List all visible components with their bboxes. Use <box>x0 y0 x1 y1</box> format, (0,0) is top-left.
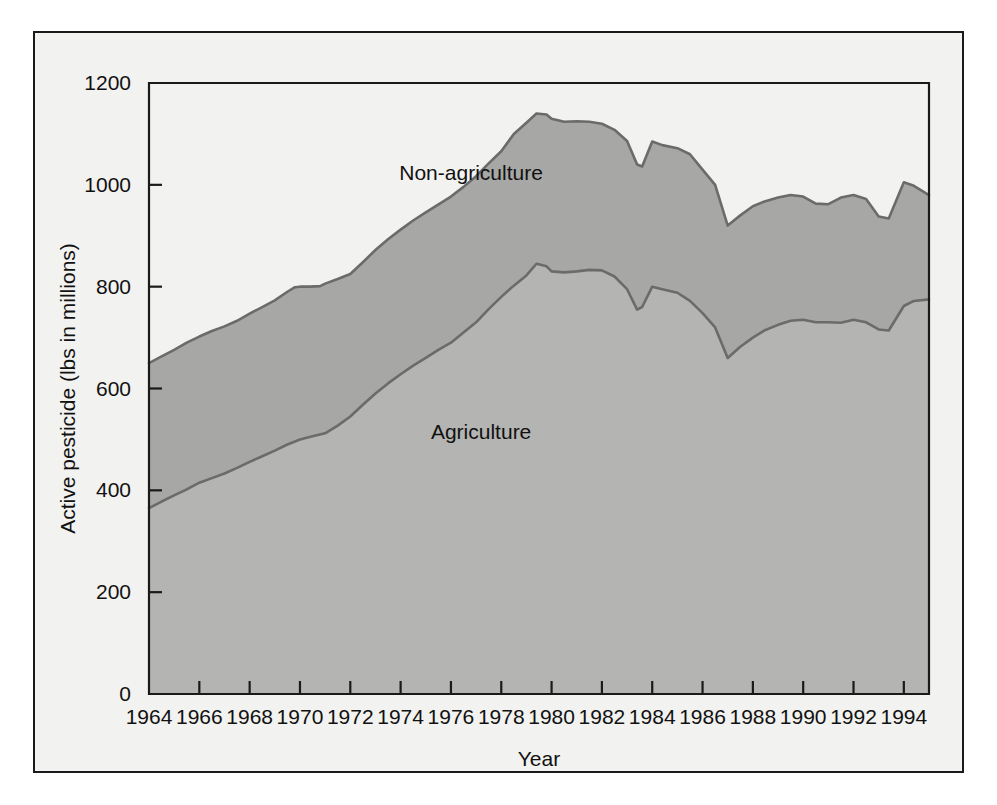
x-tick-label: 1980 <box>528 705 575 728</box>
y-tick-label: 1200 <box>84 71 131 94</box>
x-tick-label: 1990 <box>780 705 827 728</box>
x-tick-label: 1986 <box>679 705 726 728</box>
x-tick-label: 1974 <box>377 705 424 728</box>
x-tick-label: 1992 <box>830 705 877 728</box>
series-label-agriculture: Agriculture <box>431 420 531 443</box>
x-tick-label: 1976 <box>428 705 475 728</box>
area-chart: 020040060080010001200 196419661968197019… <box>35 33 966 775</box>
x-tick-label: 1964 <box>126 705 173 728</box>
x-tick-label: 1982 <box>579 705 626 728</box>
y-tick-label: 600 <box>96 377 131 400</box>
chart-svg: 020040060080010001200 196419661968197019… <box>35 33 966 775</box>
figure-panel: 020040060080010001200 196419661968197019… <box>33 31 964 773</box>
series-label-non-agriculture: Non-agriculture <box>399 161 543 184</box>
x-tick-label: 1978 <box>478 705 525 728</box>
x-tick-label: 1972 <box>327 705 374 728</box>
x-tick-label: 1966 <box>176 705 223 728</box>
x-tick-label: 1984 <box>629 705 676 728</box>
y-tick-label: 400 <box>96 478 131 501</box>
y-axis-tick-labels: 020040060080010001200 <box>84 71 131 705</box>
y-tick-label: 800 <box>96 275 131 298</box>
y-axis-title: Active pesticide (lbs in millions) <box>56 243 79 534</box>
x-tick-label: 1968 <box>226 705 273 728</box>
page-root: 020040060080010001200 196419661968197019… <box>0 0 997 805</box>
y-tick-label: 0 <box>119 682 131 705</box>
x-axis-tick-labels: 1964196619681970197219741976197819801982… <box>126 705 928 728</box>
x-tick-label: 1970 <box>277 705 324 728</box>
x-axis-title: Year <box>518 747 560 770</box>
x-tick-label: 1994 <box>880 705 927 728</box>
x-tick-label: 1988 <box>730 705 777 728</box>
y-tick-label: 1000 <box>84 173 131 196</box>
y-tick-label: 200 <box>96 580 131 603</box>
